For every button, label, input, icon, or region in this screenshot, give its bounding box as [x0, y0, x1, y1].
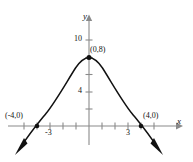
left-intercept-label: (-4,0)	[5, 112, 23, 120]
y-tick-label-10: 10	[74, 35, 82, 43]
graph-canvas	[0, 0, 193, 162]
left-intercept-point	[35, 124, 40, 129]
vertex-point	[87, 55, 92, 60]
x-tick-label-minus3: -3	[45, 129, 52, 137]
y-axis-label: y	[83, 12, 87, 21]
right-intercept-point	[139, 124, 144, 129]
vertex-point-label: (0,8)	[90, 46, 105, 54]
x-tick-label-3: 3	[126, 129, 130, 137]
y-tick-label-4: 4	[78, 87, 82, 95]
parabola-figure: y x 10 4 -3 3 (0,8) (-4,0) (4,0)	[0, 0, 193, 162]
right-intercept-label: (4,0)	[143, 112, 158, 120]
x-axis-label: x	[177, 117, 181, 126]
